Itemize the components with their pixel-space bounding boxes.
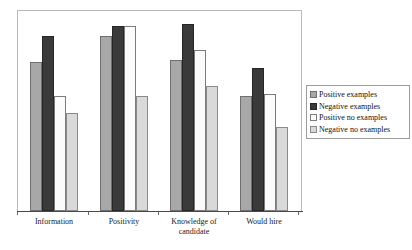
bar-2-2 bbox=[194, 50, 206, 211]
legend-label-1: Negative examples bbox=[319, 102, 380, 111]
legend-label-3: Negative no examples bbox=[319, 125, 390, 134]
bar-2-3 bbox=[206, 86, 218, 211]
bar-0-1 bbox=[42, 36, 54, 211]
legend-label-2: Positive no examples bbox=[319, 113, 387, 122]
legend-swatch-icon-0 bbox=[310, 91, 317, 98]
legend-item-0: Positive examples bbox=[310, 89, 407, 100]
bar-1-3 bbox=[136, 96, 148, 211]
bar-3-0 bbox=[240, 96, 252, 211]
bar-1-2 bbox=[124, 26, 136, 211]
x-axis-label-2: Knowledge of candidate bbox=[159, 217, 229, 236]
x-axis-label-3: Would hire bbox=[229, 217, 299, 227]
legend-swatch-icon-2 bbox=[310, 114, 317, 121]
bar-2-1 bbox=[182, 24, 194, 211]
legend: Positive examplesNegative examplesPositi… bbox=[306, 85, 410, 139]
x-axis-label-0: Information bbox=[19, 217, 89, 227]
bar-3-3 bbox=[276, 127, 288, 211]
bar-1-1 bbox=[112, 26, 124, 211]
bar-2-0 bbox=[170, 60, 182, 211]
bar-3-2 bbox=[264, 94, 276, 211]
x-axis-label-1: Positivity bbox=[89, 217, 159, 227]
legend-label-0: Positive examples bbox=[319, 90, 377, 99]
bar-3-1 bbox=[252, 68, 264, 211]
bar-0-2 bbox=[54, 96, 66, 211]
legend-item-1: Negative examples bbox=[310, 101, 407, 112]
legend-swatch-icon-1 bbox=[310, 103, 317, 110]
bar-chart: InformationPositivityKnowledge of candid… bbox=[0, 0, 412, 250]
bar-0-3 bbox=[66, 113, 78, 211]
x-axis-line bbox=[17, 211, 303, 212]
legend-swatch-icon-3 bbox=[310, 126, 317, 133]
legend-item-3: Negative no examples bbox=[310, 124, 407, 135]
legend-item-2: Positive no examples bbox=[310, 112, 407, 123]
bar-0-0 bbox=[30, 62, 42, 211]
bar-1-0 bbox=[100, 36, 112, 211]
